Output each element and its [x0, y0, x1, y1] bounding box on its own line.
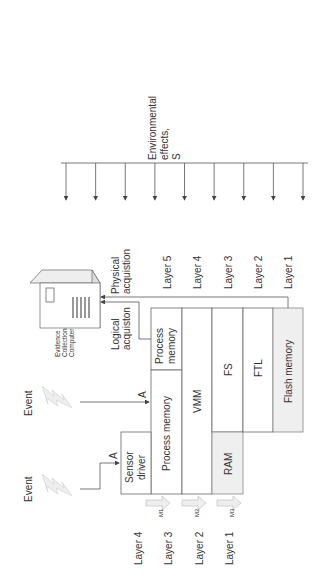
forensic-layer-diagram: Environmental effects, S Layer 5 Layer 4…: [0, 0, 318, 584]
computer-label-3: Computer: [68, 328, 76, 357]
left-layer-labels: Layer 4 Layer 3 Layer 2 Layer 1: [133, 531, 235, 565]
migration-arrow-m3: [217, 496, 241, 510]
ftl-label: FTL: [253, 359, 264, 377]
migration-arrows: [146, 496, 241, 510]
event-label-upper: Event: [23, 390, 34, 416]
process-memory-top-line1: Process: [154, 328, 165, 364]
m3-label: M3: [229, 508, 235, 517]
lightning-icon: [42, 386, 72, 408]
sensor-driver-line1: Sensor: [124, 451, 135, 483]
physical-acquisition-line: [101, 297, 288, 308]
a-label-lower: A: [108, 452, 119, 459]
logical-label-2: acquiston: [121, 307, 132, 350]
event-arrow-lower: [80, 463, 119, 489]
right-layer-4: Layer 4: [192, 255, 203, 289]
environment-arrows: [66, 163, 303, 200]
computer-label-2: Collection: [61, 328, 68, 357]
process-memory-top-line2: memory: [166, 328, 177, 364]
right-layer-3: Layer 3: [223, 255, 234, 289]
sensor-driver-line2: driver: [136, 454, 147, 480]
memory-stack: [121, 308, 303, 494]
right-layer-2: Layer 2: [253, 255, 264, 289]
left-layer-4: Layer 4: [133, 531, 144, 565]
env-label-1: Environmental: [147, 96, 158, 160]
event-label-lower: Event: [23, 476, 34, 502]
migration-arrow-m2: [182, 496, 206, 510]
physical-label-1: Physical: [110, 257, 121, 294]
right-layer-labels: Layer 5 Layer 4 Layer 3 Layer 2 Layer 1: [162, 255, 294, 289]
env-label-3: S: [171, 153, 182, 160]
migration-arrow-m1: [146, 496, 170, 510]
process-memory-label: Process memory: [161, 396, 172, 471]
physical-label-2: acquistion: [121, 249, 132, 294]
a-label-upper: A: [137, 391, 148, 398]
environmental-effects: Environmental effects, S: [61, 96, 308, 200]
computer-label-1: Evidence: [54, 330, 61, 357]
event-lower: [42, 463, 119, 496]
event-upper: [42, 386, 149, 408]
m1-label: M1: [158, 508, 164, 517]
logical-label-1: Logical: [110, 318, 121, 350]
m2-label: M2: [194, 508, 200, 517]
left-layer-3: Layer 3: [163, 531, 174, 565]
right-layer-1: Layer 1: [283, 255, 294, 289]
right-layer-5: Layer 5: [162, 255, 173, 289]
left-layer-1: Layer 1: [224, 531, 235, 565]
evidence-computer-icon: [30, 270, 100, 328]
left-layer-2: Layer 2: [194, 531, 205, 565]
flash-memory-label: Flash memory: [283, 340, 294, 403]
fs-label: FS: [223, 363, 234, 376]
ram-label: RAM: [223, 453, 234, 475]
vmm-label: VMM: [192, 390, 203, 413]
lightning-icon: [42, 474, 72, 496]
env-label-2: effects,: [159, 128, 170, 160]
